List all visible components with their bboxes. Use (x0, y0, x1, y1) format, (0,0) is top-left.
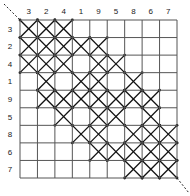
x-mark-cell (20, 38, 37, 56)
x-mark-cell (90, 108, 107, 126)
x-mark-cell (125, 160, 142, 178)
diagonal-dashed-line-start (4, 4, 20, 20)
x-mark-cell (107, 143, 124, 161)
x-mark-cell (37, 55, 54, 73)
x-mark-cell (20, 20, 37, 38)
x-mark-cell (20, 55, 37, 73)
x-mark-cell (125, 73, 142, 91)
column-label: 6 (149, 7, 154, 16)
x-mark-cell (142, 160, 159, 178)
cell-marks (19, 19, 179, 180)
x-mark-cell (55, 20, 72, 38)
x-mark-cell (90, 90, 107, 108)
x-mark-cell (160, 160, 177, 178)
x-mark-cell (107, 90, 124, 108)
x-mark-cell (142, 90, 159, 108)
column-labels: 324195867 (26, 7, 171, 16)
x-mark-cell (72, 38, 89, 56)
row-label: 6 (8, 148, 13, 157)
diagonal-dashed-line-end (177, 178, 189, 193)
row-label: 1 (8, 77, 13, 86)
row-labels: 324195867 (8, 25, 13, 174)
x-mark-cell (37, 20, 54, 38)
x-mark-cell (107, 55, 124, 73)
x-mark-cell (72, 90, 89, 108)
x-mark-cell (55, 55, 72, 73)
row-label: 8 (8, 130, 13, 139)
x-mark-cell (125, 143, 142, 161)
row-label: 4 (8, 60, 13, 69)
matrix-diagram: 324195867 324195867 (0, 0, 190, 196)
x-mark-cell (142, 125, 159, 143)
x-mark-cell (55, 90, 72, 108)
x-mark-cell (125, 90, 142, 108)
x-mark-cell (90, 125, 107, 143)
column-label: 2 (44, 7, 49, 16)
x-mark-cell (55, 38, 72, 56)
x-mark-cell (72, 73, 89, 91)
x-mark-cell (90, 143, 107, 161)
row-label: 9 (8, 95, 13, 104)
x-mark-cell (90, 38, 107, 56)
row-label: 7 (8, 165, 13, 174)
column-label: 1 (79, 7, 84, 16)
row-label: 5 (8, 113, 13, 122)
column-label: 7 (166, 7, 171, 16)
x-mark-cell (142, 143, 159, 161)
column-label: 5 (114, 7, 119, 16)
row-label: 3 (8, 25, 13, 34)
x-mark-cell (37, 90, 54, 108)
row-label: 2 (8, 42, 13, 51)
x-mark-cell (37, 73, 54, 91)
x-mark-cell (125, 125, 142, 143)
x-mark-cell (160, 143, 177, 161)
column-label: 3 (26, 7, 31, 16)
x-mark-cell (55, 108, 72, 126)
x-mark-cell (90, 73, 107, 91)
x-mark-cell (90, 55, 107, 73)
x-mark-cell (142, 108, 159, 126)
column-label: 8 (131, 7, 136, 16)
x-mark-cell (160, 125, 177, 143)
column-label: 4 (61, 7, 66, 16)
x-mark-cell (107, 108, 124, 126)
x-mark-cell (72, 125, 89, 143)
column-label: 9 (96, 7, 101, 16)
x-mark-cell (37, 38, 54, 56)
